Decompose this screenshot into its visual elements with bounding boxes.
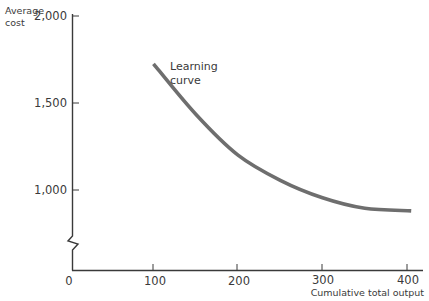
curve-annotation: Learning curve — [170, 60, 218, 87]
x-tick-label-0: 0 — [65, 274, 72, 288]
y-tick-label-1500: 1,500 — [34, 96, 67, 110]
annotation-line1: Learning — [170, 60, 218, 73]
learning-curve-chart: 2,000 1,500 1,000 Average cost 0 100 200… — [0, 0, 429, 301]
y-axis-line — [68, 14, 78, 271]
y-axis-title-line2: cost — [5, 17, 25, 28]
x-tick-label-100: 100 — [144, 274, 166, 288]
x-axis-title: Cumulative total output — [311, 287, 425, 298]
y-axis-title-line1: Average — [5, 5, 44, 16]
y-axis: 2,000 1,500 1,000 Average cost — [5, 5, 79, 271]
y-tick-label-1000: 1,000 — [34, 183, 67, 197]
x-tick-label-400: 400 — [397, 273, 419, 287]
x-axis: 0 100 200 300 400 Cumulative total outpu… — [65, 264, 424, 298]
annotation-line2: curve — [170, 74, 201, 87]
x-tick-label-300: 300 — [312, 273, 334, 287]
x-tick-label-200: 200 — [228, 274, 250, 288]
